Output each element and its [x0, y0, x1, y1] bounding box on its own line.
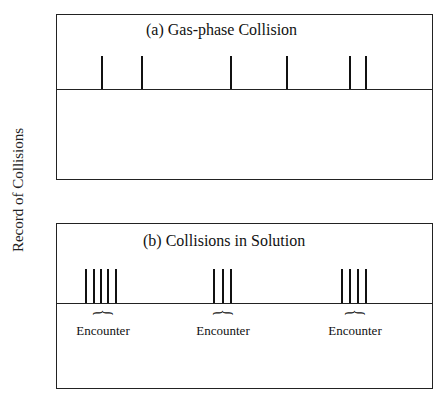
collision-tick	[357, 269, 359, 303]
collision-tick	[93, 269, 95, 303]
collision-tick	[107, 269, 109, 303]
encounter-label: Encounter	[196, 323, 249, 339]
panel-b-title: (b) Collisions in Solution	[143, 232, 305, 250]
collision-tick	[100, 269, 102, 303]
collision-tick	[230, 269, 232, 303]
encounter-label: Encounter	[328, 323, 381, 339]
y-axis-label: Record of Collisions	[10, 128, 27, 252]
collision-tick	[365, 269, 367, 303]
collision-tick	[230, 56, 232, 89]
collision-tick	[85, 269, 87, 303]
panel-solution: (b) Collisions in Solution }Encounter}En…	[56, 223, 433, 389]
collision-tick	[365, 56, 367, 89]
time-axis-b	[57, 303, 432, 304]
encounter-label: Encounter	[76, 323, 129, 339]
collision-tick	[349, 269, 351, 303]
panel-gas-phase: (a) Gas-phase Collision	[56, 14, 433, 180]
collision-tick	[222, 269, 224, 303]
time-axis-a	[57, 89, 432, 90]
encounter-brace: }	[343, 310, 365, 317]
encounter-brace: }	[91, 310, 113, 317]
collision-tick	[115, 269, 117, 303]
encounter-brace: }	[211, 310, 233, 317]
collision-tick	[141, 56, 143, 89]
collision-tick	[349, 56, 351, 89]
collision-tick	[341, 269, 343, 303]
collision-tick	[213, 269, 215, 303]
collision-tick	[101, 56, 103, 89]
collision-tick	[286, 56, 288, 89]
panel-a-title: (a) Gas-phase Collision	[146, 21, 297, 39]
